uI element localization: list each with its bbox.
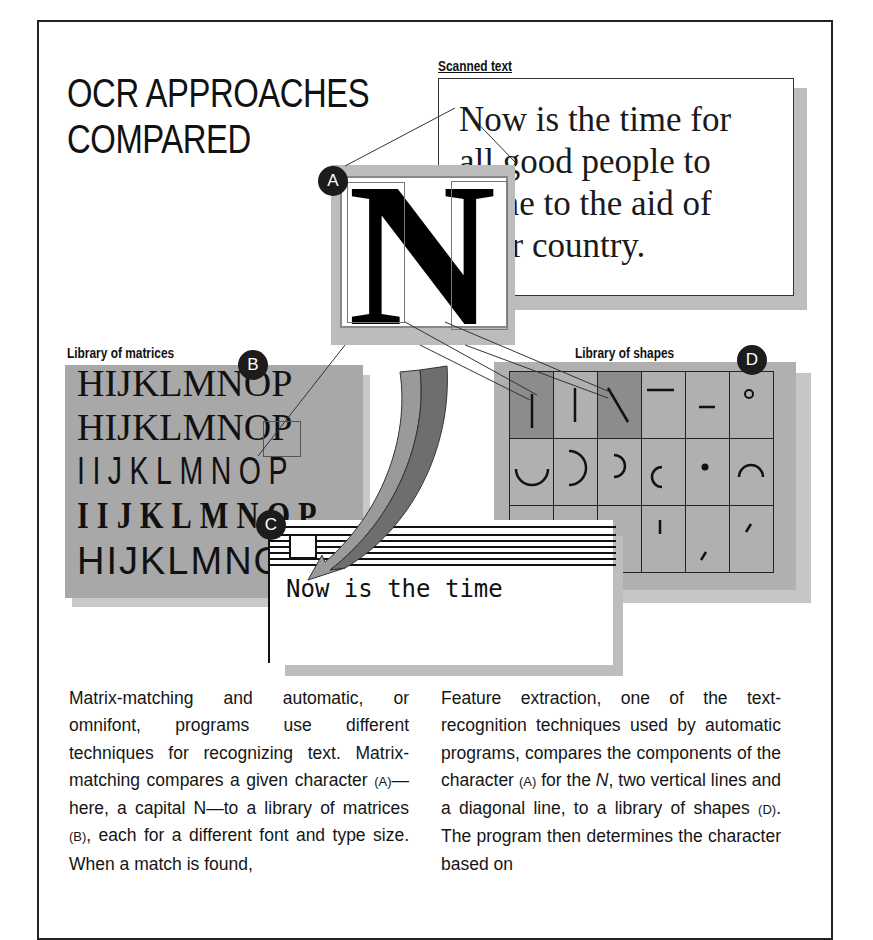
caption-left: Matrix-matching and automatic, or omnifo… <box>69 685 409 878</box>
badge-d: D <box>737 345 767 375</box>
caption-right: Feature extraction, one of the text-reco… <box>441 685 781 878</box>
badge-b: B <box>238 350 268 380</box>
badge-c: C <box>256 510 286 540</box>
badge-a: A <box>318 166 348 196</box>
flow-arrow-icon <box>308 366 447 580</box>
